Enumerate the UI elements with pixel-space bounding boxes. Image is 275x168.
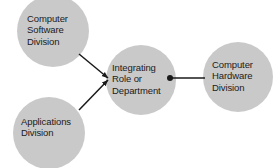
node-computer-hardware-division	[203, 42, 273, 112]
integration-diagram: ComputerSoftwareDivision ApplicationsDiv…	[0, 0, 275, 168]
node-computer-software-division	[17, 0, 89, 67]
node-integrating-role-or-department	[106, 45, 176, 115]
connector-junction-dot	[167, 75, 173, 81]
connector-software-to-integrating	[79, 54, 108, 78]
connector-applications-to-integrating	[79, 80, 108, 110]
node-applications-division	[13, 97, 85, 168]
diagram-canvas	[0, 0, 275, 168]
